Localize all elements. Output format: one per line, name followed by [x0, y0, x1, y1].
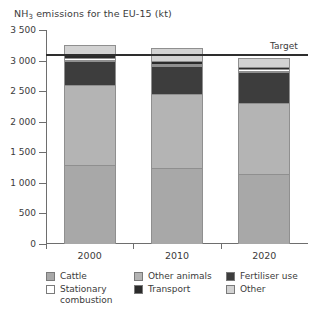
y-tick — [39, 244, 46, 245]
bar-segment[interactable] — [238, 69, 290, 71]
y-tick-label: 3 500 — [10, 25, 36, 35]
x-tick-label: 2000 — [78, 250, 102, 261]
y-tick-label: 3 000 — [10, 56, 36, 66]
plot-area: 05001 0001 5002 0002 5003 0003 500 20002… — [46, 30, 308, 244]
bar-segment[interactable] — [238, 58, 290, 67]
bar-segment[interactable] — [238, 67, 290, 69]
bar-segment[interactable] — [64, 165, 116, 244]
legend-item[interactable]: Other — [226, 284, 318, 306]
bar-segment[interactable] — [151, 66, 203, 94]
y-tick-label: 500 — [19, 208, 36, 218]
legend-label: Other — [240, 284, 266, 295]
legend-swatch-icon — [46, 285, 55, 294]
legend-item[interactable]: Fertiliser use — [226, 271, 318, 282]
y-axis-line — [46, 30, 47, 244]
stacked-bar[interactable] — [64, 45, 116, 244]
legend-swatch-icon — [134, 272, 143, 281]
legend-label: Other animals — [148, 271, 212, 282]
y-tick — [39, 30, 46, 31]
chart-title: NH3 emissions for the EU-15 (kt) — [14, 8, 172, 21]
bar-segment[interactable] — [151, 61, 203, 64]
y-tick — [39, 213, 46, 214]
legend-item[interactable]: Transport — [134, 284, 226, 306]
bar-segment[interactable] — [238, 174, 290, 244]
stacked-bar[interactable] — [151, 48, 203, 244]
y-tick — [39, 183, 46, 184]
chart-legend: CattleOther animalsFertiliser useStation… — [46, 271, 318, 306]
bar-segment[interactable] — [151, 168, 203, 244]
chart-title-prefix: NH — [14, 8, 28, 19]
chart-title-suffix: emissions for the EU-15 (kt) — [33, 8, 172, 19]
legend-label: Cattle — [60, 271, 87, 282]
chart-figure: NH3 emissions for the EU-15 (kt) 05001 0… — [0, 0, 326, 323]
y-tick-label: 2 500 — [10, 86, 36, 96]
y-tick-label: 1 000 — [10, 178, 36, 188]
bar-segment[interactable] — [64, 61, 116, 85]
bar-segment[interactable] — [151, 64, 203, 66]
bar-segment[interactable] — [238, 72, 290, 104]
bar-segment[interactable] — [238, 103, 290, 173]
legend-swatch-icon — [46, 272, 55, 281]
y-tick — [39, 61, 46, 62]
legend-swatch-icon — [226, 272, 235, 281]
legend-swatch-icon — [134, 285, 143, 294]
legend-item[interactable]: Stationary combustion — [46, 284, 134, 306]
legend-item[interactable]: Cattle — [46, 271, 134, 282]
x-tick-label: 2020 — [252, 250, 276, 261]
target-label: Target — [270, 41, 298, 51]
y-tick — [39, 91, 46, 92]
y-tick — [39, 152, 46, 153]
x-tick-label: 2010 — [165, 250, 189, 261]
x-tick — [133, 244, 134, 249]
bar-segment[interactable] — [64, 58, 116, 60]
y-tick-label: 0 — [30, 239, 36, 249]
target-line — [46, 54, 308, 56]
legend-item[interactable]: Other animals — [134, 271, 226, 282]
legend-label: Stationary combustion — [60, 284, 134, 306]
x-tick — [46, 244, 47, 249]
legend-swatch-icon — [226, 285, 235, 294]
stacked-bar[interactable] — [238, 58, 290, 244]
y-tick-label: 2 000 — [10, 117, 36, 127]
legend-label: Fertiliser use — [240, 271, 298, 282]
y-tick — [39, 122, 46, 123]
legend-label: Transport — [148, 284, 190, 295]
x-tick — [221, 244, 222, 249]
y-tick-label: 1 500 — [10, 147, 36, 157]
bar-segment[interactable] — [64, 85, 116, 164]
bar-segment[interactable] — [151, 94, 203, 167]
bar-segment[interactable] — [64, 45, 116, 54]
